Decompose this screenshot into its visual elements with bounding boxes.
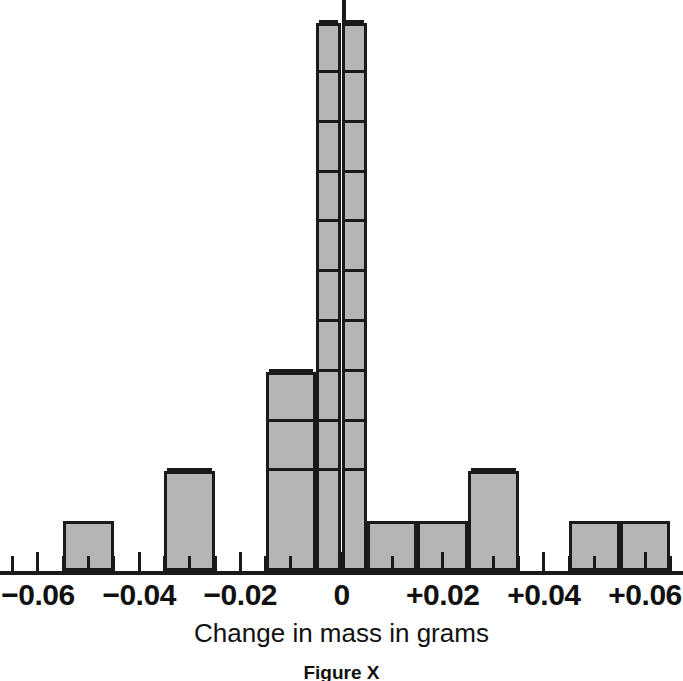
axis-tick-minor bbox=[391, 556, 394, 571]
axis-tick-label: +0.02 bbox=[406, 578, 479, 612]
histogram-bar-cell bbox=[319, 468, 338, 518]
histogram-bar-cell bbox=[319, 120, 338, 170]
histogram-bar-cell bbox=[319, 369, 338, 419]
axis-tick-minor bbox=[517, 556, 520, 571]
axis-tick-minor bbox=[365, 556, 368, 571]
axis-tick-major bbox=[542, 552, 545, 571]
histogram-bar bbox=[316, 23, 341, 571]
axis-tick-major bbox=[138, 552, 141, 571]
axis-tick-label: 0 bbox=[333, 578, 349, 612]
axis-tick-label: −0.06 bbox=[1, 578, 74, 612]
axis-tick-minor bbox=[593, 556, 596, 571]
plot-area bbox=[0, 0, 683, 571]
histogram-bar-cell bbox=[269, 419, 314, 469]
histogram-bar-cell bbox=[345, 269, 364, 319]
histogram-bar-cell bbox=[319, 219, 338, 269]
axis-tick-minor bbox=[315, 556, 318, 571]
figure-caption: Figure X bbox=[0, 662, 683, 681]
axis-tick-minor bbox=[11, 556, 14, 571]
axis-tick-label: −0.02 bbox=[204, 578, 277, 612]
axis-tick-minor bbox=[87, 556, 90, 571]
axis-tick-minor bbox=[669, 556, 672, 571]
axis-tick-major bbox=[340, 552, 343, 571]
histogram-bar-cell bbox=[345, 468, 364, 518]
histogram-bar-cell bbox=[345, 70, 364, 120]
histogram-bar bbox=[266, 372, 317, 571]
histogram-bar-cell bbox=[319, 319, 338, 369]
histogram-bar-cell bbox=[319, 419, 338, 469]
histogram-bar-cell bbox=[319, 70, 338, 120]
histogram-bar-cell bbox=[471, 468, 516, 518]
histogram-bar bbox=[342, 23, 367, 571]
histogram-bar-cell bbox=[269, 369, 314, 419]
axis-tick-label: +0.06 bbox=[608, 578, 681, 612]
axis-tick-major bbox=[441, 552, 444, 571]
histogram-bar-cell bbox=[345, 120, 364, 170]
axis-tick-minor bbox=[112, 556, 115, 571]
histogram-bar-cell bbox=[345, 319, 364, 369]
histogram-bar-cell bbox=[319, 269, 338, 319]
axis-tick-minor bbox=[264, 556, 267, 571]
axis-tick-minor bbox=[163, 556, 166, 571]
zero-reference-tick bbox=[342, 0, 346, 26]
axis-tick-label: +0.04 bbox=[507, 578, 580, 612]
histogram-figure: −0.06−0.04−0.020+0.02+0.04+0.06 Change i… bbox=[0, 0, 683, 681]
axis-tick-minor bbox=[416, 556, 419, 571]
axis-tick-major bbox=[239, 552, 242, 571]
axis-tick-label: −0.04 bbox=[102, 578, 175, 612]
histogram-bar-cell bbox=[345, 170, 364, 220]
axis-tick-minor bbox=[618, 556, 621, 571]
histogram-bar-cell bbox=[345, 219, 364, 269]
axis-tick-major bbox=[644, 552, 647, 571]
x-axis-line bbox=[0, 571, 683, 575]
histogram-bar-cell bbox=[345, 369, 364, 419]
axis-tick-minor bbox=[214, 556, 217, 571]
x-axis-title: Change in mass in grams bbox=[0, 618, 683, 649]
axis-tick-minor bbox=[62, 556, 65, 571]
axis-tick-minor bbox=[492, 556, 495, 571]
histogram-bar-cell bbox=[167, 468, 212, 518]
histogram-bar-cell bbox=[345, 518, 364, 568]
axis-tick-minor bbox=[466, 556, 469, 571]
histogram-bar-cell bbox=[345, 20, 364, 70]
histogram-bar-cell bbox=[269, 468, 314, 518]
histogram-bar-cell bbox=[345, 419, 364, 469]
axis-tick-major bbox=[36, 552, 39, 571]
axis-tick-minor bbox=[289, 556, 292, 571]
histogram-bar-cell bbox=[319, 518, 338, 568]
axis-tick-minor bbox=[568, 556, 571, 571]
histogram-bar-cell bbox=[319, 20, 338, 70]
histogram-bar-cell bbox=[319, 170, 338, 220]
axis-tick-minor bbox=[188, 556, 191, 571]
